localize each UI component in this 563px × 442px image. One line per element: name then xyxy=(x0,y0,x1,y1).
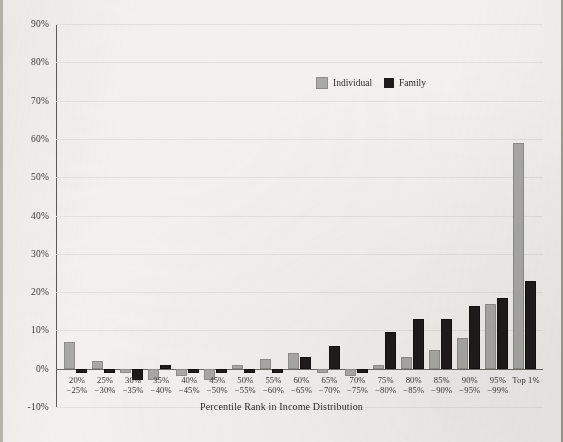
bar-family xyxy=(525,281,536,369)
legend-item: Family xyxy=(384,78,426,88)
plot-area: 90%80%70%60%50%40%30%20%10%0%-10% 20%−25… xyxy=(56,24,543,407)
bar-group xyxy=(120,24,148,407)
bar-family xyxy=(76,369,87,373)
bar-individual xyxy=(457,338,468,369)
legend-swatch-icon xyxy=(384,78,394,88)
y-axis-tick-label: 30% xyxy=(31,249,49,259)
y-axis-tick-label: 40% xyxy=(31,211,49,221)
bar-family xyxy=(357,369,368,373)
bar-family xyxy=(216,369,227,373)
bar-group xyxy=(260,24,288,407)
y-axis-tick-label: 90% xyxy=(31,19,49,29)
chart-legend: IndividualFamily xyxy=(316,77,426,89)
bar-family xyxy=(413,319,424,369)
bar-individual xyxy=(429,350,440,369)
bar-family xyxy=(385,332,396,368)
bar-family xyxy=(497,298,508,369)
bar-individual xyxy=(513,143,524,369)
bar-group xyxy=(513,24,541,407)
bar-individual xyxy=(373,365,384,369)
x-axis-title: Percentile Rank in Income Distribution xyxy=(0,401,563,412)
bar-family xyxy=(104,369,115,373)
y-axis-tick-label: 50% xyxy=(31,172,49,182)
y-axis-tick-label: 70% xyxy=(31,96,49,106)
legend-label: Individual xyxy=(333,78,372,88)
bar-family xyxy=(244,369,255,373)
bar-group xyxy=(232,24,260,407)
bar-group xyxy=(485,24,513,407)
bar-group xyxy=(64,24,92,407)
bar-individual xyxy=(288,353,299,368)
bar-family xyxy=(441,319,452,369)
x-axis-tick-label: Top 1% xyxy=(503,375,549,386)
bar-individual xyxy=(64,342,75,369)
bar-individual xyxy=(485,304,496,369)
bar-individual xyxy=(232,365,243,369)
bar-family xyxy=(469,306,480,369)
bar-family xyxy=(160,365,171,369)
bar-group xyxy=(204,24,232,407)
bar-individual xyxy=(401,357,412,368)
bar-individual xyxy=(92,361,103,369)
bar-family xyxy=(188,369,199,373)
legend-item: Individual xyxy=(316,77,372,89)
legend-label: Family xyxy=(399,78,426,88)
bar-individual xyxy=(260,359,271,369)
bar-group xyxy=(288,24,316,407)
y-axis-tick-label: 80% xyxy=(31,57,49,67)
bar-individual xyxy=(120,369,131,373)
y-axis-tick-label: 60% xyxy=(31,134,49,144)
y-axis-tick-label: 0% xyxy=(36,364,49,374)
bar-individual xyxy=(317,369,328,373)
bar-family xyxy=(272,369,283,373)
legend-swatch-icon xyxy=(316,77,328,89)
bar-family xyxy=(300,357,311,368)
y-axis-tick-label: 20% xyxy=(31,287,49,297)
bar-group xyxy=(457,24,485,407)
chart-figure: 90%80%70%60%50%40%30%20%10%0%-10% 20%−25… xyxy=(0,0,563,442)
bar-family xyxy=(329,346,340,369)
y-axis-tick-label: 10% xyxy=(31,325,49,335)
bar-group xyxy=(148,24,176,407)
bar-group xyxy=(176,24,204,407)
bar-group xyxy=(429,24,457,407)
bar-group xyxy=(92,24,120,407)
